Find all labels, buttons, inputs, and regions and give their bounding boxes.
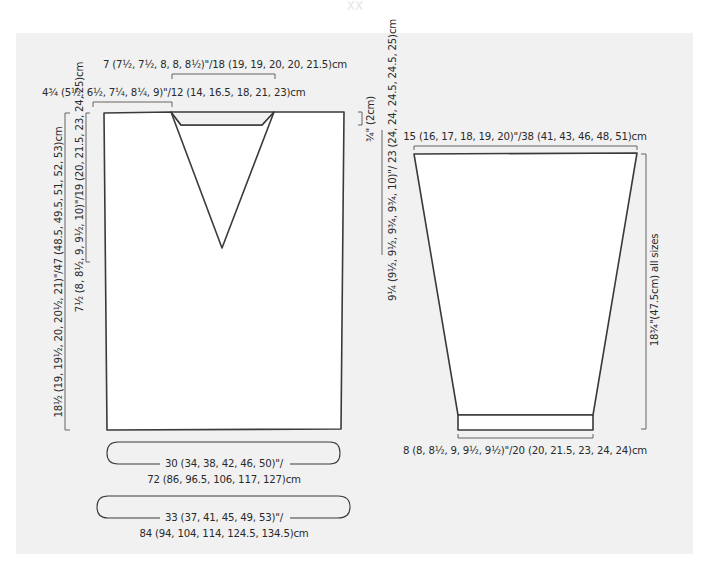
faded-header: XX [347, 0, 363, 13]
schematic-diagram: XX 7 (7½, 7½, 8, 8, 8½)"/18 (19, 19, 20,… [0, 0, 710, 578]
cuff-width-label: 8 (8, 8½, 9, 9½, 9½)"/20 (20, 21.5, 23, … [403, 445, 647, 456]
sleeve-upper-width-label: 15 (16, 17, 18, 19, 20)"/38 (41, 43, 46,… [403, 131, 647, 142]
armhole-depth-label: 9¼ (9½, 9½, 9¾, 9¾, 10)"/ 23 (24, 24, 24… [387, 19, 398, 301]
sleeve-length-bracket [641, 154, 646, 429]
total-length-label: 18½ (19, 19½, 20, 20½, 21)"/47 (48.5, 49… [53, 126, 64, 417]
body-piece: 7 (7½, 7½, 8, 8, 8½)"/18 (19, 19, 20, 20… [42, 19, 398, 539]
back-neck-shaping [171, 112, 274, 125]
body-outline [104, 112, 344, 430]
neck-width-label: 7 (7½, 7½, 8, 8, 8½)"/18 (19, 19, 20, 20… [103, 59, 347, 70]
neck-width-bracket [172, 74, 275, 79]
sleeve-upper-width-bracket [414, 146, 637, 150]
width-label-line2: 72 (86, 96.5, 106, 117, 127)cm [147, 474, 301, 485]
sleeve-piece: 15 (16, 17, 18, 19, 20)"/38 (41, 43, 46,… [403, 131, 660, 456]
chest-label-line1: 33 (37, 41, 45, 49, 53)"/ [165, 512, 284, 523]
cuff-width-bracket [458, 434, 593, 438]
width-label-line1: 30 (34, 38, 42, 46, 50)"/ [165, 458, 284, 469]
sleeve-cuff [458, 415, 593, 430]
v-neck-depth-label: 7½ (8, 8½, 9, 9½, 10)"/19 (20, 21.5, 23,… [74, 62, 85, 313]
neck-drop-bracket [358, 112, 362, 125]
chest-label-line2: 84 (94, 104, 114, 124.5, 134.5)cm [139, 528, 308, 539]
neck-drop-label: ¾" (2cm) [365, 96, 376, 142]
sleeve-length-label: 18¾"(47.5cm) all sizes [649, 234, 660, 347]
shoulder-width-bracket [93, 102, 172, 107]
total-length-bracket [65, 113, 70, 430]
sleeve-outline [414, 153, 637, 415]
v-neck-depth-bracket [86, 113, 90, 262]
